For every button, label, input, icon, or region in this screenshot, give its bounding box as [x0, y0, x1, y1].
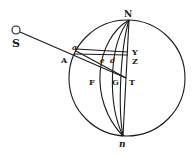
label-G: G — [112, 77, 119, 87]
body-s-circle — [12, 26, 20, 34]
label-T: T — [129, 77, 135, 87]
main-circle — [69, 20, 185, 136]
label-A: A — [60, 55, 68, 65]
label-d: d — [110, 56, 115, 65]
line-a-y — [76, 49, 128, 52]
geometry-diagram: S N n a A Y Z e d F G T — [0, 0, 195, 155]
label-s: S — [12, 37, 20, 50]
label-a: a — [72, 42, 77, 52]
label-N: N — [124, 9, 132, 19]
label-n: n — [119, 139, 126, 149]
label-F: F — [89, 77, 95, 87]
label-e: e — [100, 56, 105, 65]
label-Z: Z — [132, 56, 138, 66]
